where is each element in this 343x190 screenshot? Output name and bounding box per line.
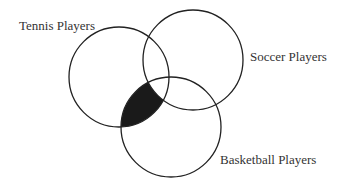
- soccer-players-label: Soccer Players: [250, 50, 327, 63]
- tennis-circle: [69, 27, 169, 127]
- basketball-circle: [121, 77, 221, 177]
- soccer-circle: [143, 10, 243, 110]
- basketball-players-label: Basketball Players: [220, 153, 316, 166]
- tennis-players-label: Tennis Players: [19, 19, 95, 32]
